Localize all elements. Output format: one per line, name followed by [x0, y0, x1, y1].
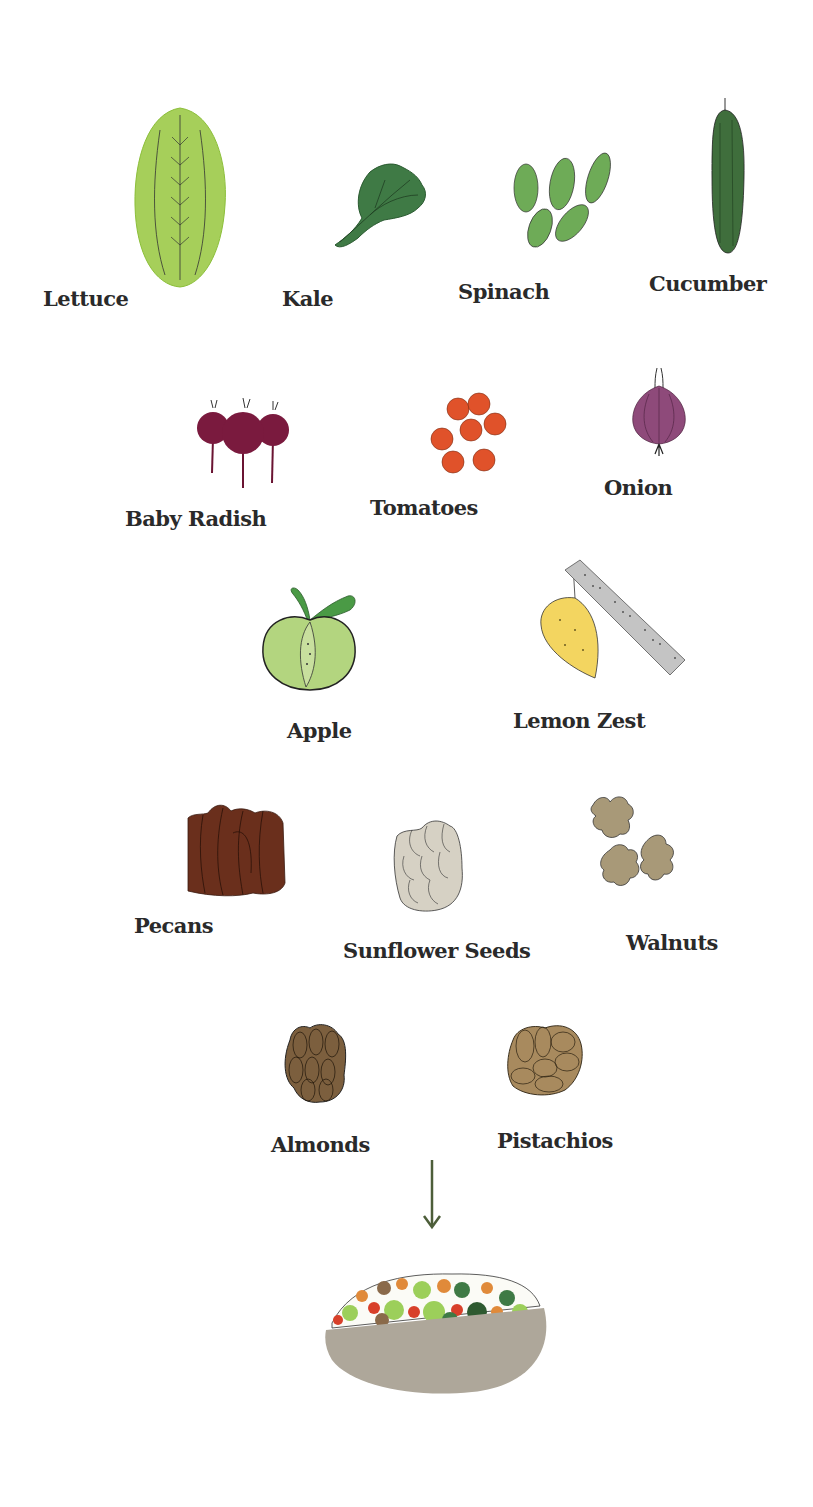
label-walnuts: Walnuts	[626, 930, 718, 955]
label-baby-radish: Baby Radish	[125, 506, 266, 531]
walnuts-illustration	[588, 790, 688, 900]
spinach-illustration	[510, 150, 620, 250]
tomatoes-illustration	[425, 392, 515, 482]
label-almonds: Almonds	[271, 1132, 370, 1157]
pistachios-illustration	[505, 1020, 585, 1098]
label-cucumber: Cucumber	[649, 271, 766, 296]
label-apple: Apple	[287, 718, 352, 743]
label-onion: Onion	[604, 475, 672, 500]
kale-illustration	[330, 160, 430, 250]
sunflower-seeds-illustration	[392, 818, 467, 913]
label-tomatoes: Tomatoes	[370, 495, 478, 520]
arrow-down-icon	[420, 1160, 444, 1230]
lettuce-illustration	[130, 105, 230, 290]
almonds-illustration	[280, 1020, 350, 1105]
label-lemon-zest: Lemon Zest	[513, 708, 645, 733]
pecans-illustration	[183, 803, 288, 898]
onion-illustration	[625, 368, 695, 460]
baby-radish-illustration	[195, 398, 295, 493]
label-kale: Kale	[282, 286, 333, 311]
label-lettuce: Lettuce	[43, 286, 128, 311]
apple-illustration	[258, 582, 363, 692]
cucumber-illustration	[700, 98, 760, 258]
label-pecans: Pecans	[134, 913, 213, 938]
label-pistachios: Pistachios	[497, 1128, 613, 1153]
salad-bowl-illustration	[322, 1268, 554, 1398]
label-spinach: Spinach	[458, 279, 549, 304]
lemon-zest-illustration	[535, 560, 690, 685]
label-sunflower-seeds: Sunflower Seeds	[343, 938, 530, 963]
